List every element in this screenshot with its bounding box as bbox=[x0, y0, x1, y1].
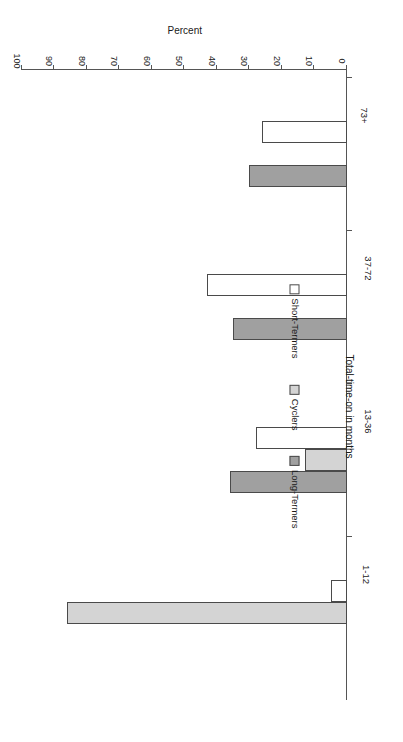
value-tick-label: 80 bbox=[77, 44, 87, 78]
chart-legend: Long-TermersCyclersShort-Termers bbox=[290, 247, 301, 567]
value-tick-label: 90 bbox=[45, 44, 55, 78]
value-tick-label: 100 bbox=[12, 44, 22, 78]
legend-item-long-termers[interactable]: Long-Termers bbox=[290, 456, 301, 529]
bar-73+-short-termers bbox=[263, 122, 348, 144]
value-tick-label: 20 bbox=[272, 44, 282, 78]
category-axis-title: Total-time-on in months bbox=[344, 257, 355, 557]
bar-73+-long-termers bbox=[250, 166, 348, 188]
legend-label: Cyclers bbox=[290, 398, 301, 430]
chart-figure: 0102030405060708090100 1-1213-3637-7273+… bbox=[0, 0, 403, 742]
category-label-73+: 73+ bbox=[357, 110, 403, 121]
category-tick bbox=[347, 230, 352, 231]
bar-37-72-short-termers bbox=[207, 275, 347, 297]
legend-item-short-termers[interactable]: Short-Termers bbox=[290, 284, 301, 358]
category-label-1-12: 1-12 bbox=[357, 569, 403, 580]
legend-label: Long-Termers bbox=[290, 470, 301, 529]
value-tick-label: 60 bbox=[142, 44, 152, 78]
value-tick-label: 40 bbox=[207, 44, 217, 78]
value-axis-line bbox=[22, 69, 347, 70]
plot-area: 0102030405060708090100 1-1213-3637-7273+… bbox=[0, 0, 403, 742]
value-axis-title-text: Percent bbox=[167, 25, 201, 36]
value-tick-label: 0 bbox=[337, 44, 347, 78]
legend-swatch-icon bbox=[290, 384, 300, 394]
value-tick-label: 50 bbox=[175, 44, 185, 78]
legend-label: Short-Termers bbox=[290, 298, 301, 358]
value-axis-title: Percent bbox=[22, 25, 347, 36]
category-tick bbox=[347, 77, 352, 78]
value-tick-label: 30 bbox=[240, 44, 250, 78]
legend-swatch-icon bbox=[290, 284, 300, 294]
category-label-37-72: 37-72 bbox=[357, 263, 403, 274]
value-tick-label: 10 bbox=[305, 44, 315, 78]
bar-1-12-cyclers bbox=[68, 603, 348, 625]
legend-swatch-icon bbox=[290, 456, 300, 466]
bar-13-36-long-termers bbox=[230, 472, 347, 494]
category-axis-title-text: Total-time-on in months bbox=[344, 355, 355, 459]
category-label-13-36: 13-36 bbox=[357, 416, 403, 427]
bar-1-12-short-termers bbox=[331, 581, 347, 603]
value-tick-label: 70 bbox=[110, 44, 120, 78]
legend-item-cyclers[interactable]: Cyclers bbox=[290, 384, 301, 430]
bar-13-36-cyclers bbox=[305, 450, 347, 472]
bar-13-36-short-termers bbox=[256, 428, 347, 450]
